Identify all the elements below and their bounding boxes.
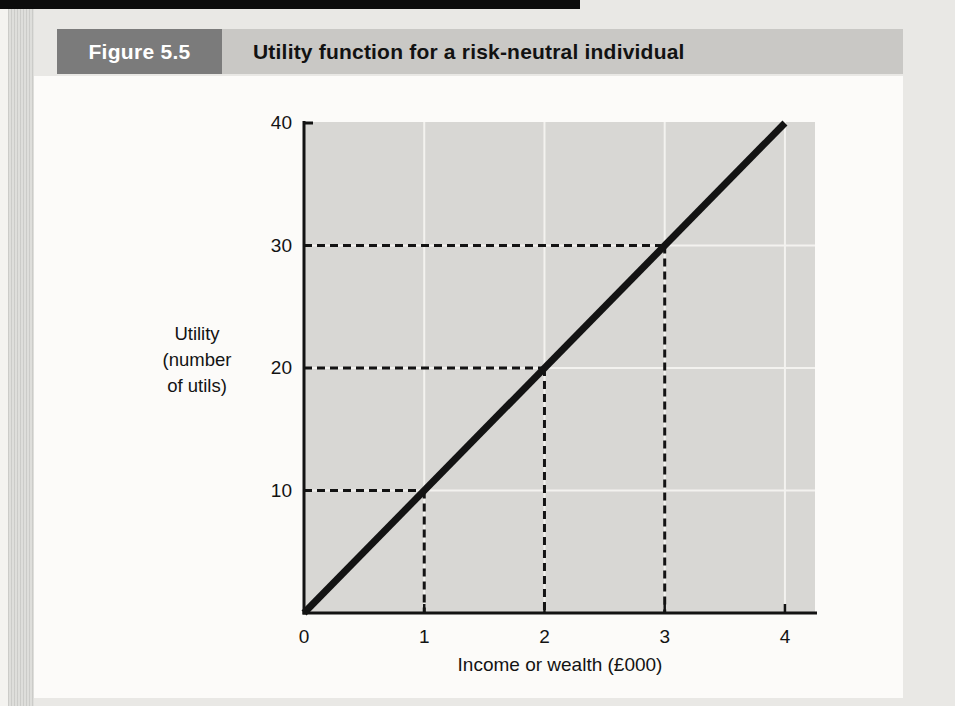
y-tick-label: 30 xyxy=(242,235,292,257)
x-tick-label: 4 xyxy=(765,626,805,648)
x-axis-title: Income or wealth (£000) xyxy=(410,654,710,676)
x-tick-label: 2 xyxy=(524,626,564,648)
y-tick-label: 10 xyxy=(242,480,292,502)
x-tick-label: 1 xyxy=(404,626,444,648)
x-tick-label: 0 xyxy=(284,626,324,648)
scanned-textbook-page: Figure 5.5 Utility function for a risk-n… xyxy=(0,0,955,706)
y-axis-title-line-2: (number xyxy=(144,347,250,373)
x-tick-label: 3 xyxy=(645,626,685,648)
y-axis-title-line-3: of utils) xyxy=(144,373,250,399)
y-tick-label: 40 xyxy=(242,112,292,134)
y-tick-label: 20 xyxy=(242,357,292,379)
y-axis-title: Utility (number of utils) xyxy=(144,321,250,399)
y-axis-title-line-1: Utility xyxy=(144,321,250,347)
